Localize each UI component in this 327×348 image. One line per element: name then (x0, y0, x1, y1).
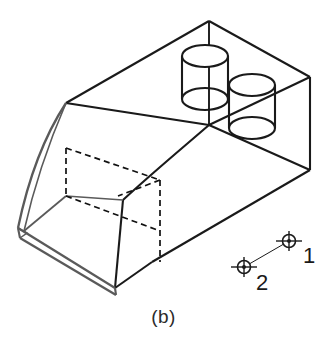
datum-target-group: 1 2 (231, 231, 315, 295)
cylinder-right-top-ellipse (229, 74, 275, 96)
hidden-recess (66, 148, 160, 262)
datum-target-1-label: 1 (303, 243, 315, 268)
right-lower-face-edge (152, 170, 310, 262)
inclined-face-right-edge (209, 125, 310, 170)
datum-target-2-center-dot (242, 265, 246, 269)
datum-connector-line (244, 241, 289, 267)
cylinder-left-bottom-ellipse (182, 88, 228, 110)
cylinder-left (182, 45, 228, 110)
hidden-recess-diagonal-edge (118, 180, 160, 196)
cylinder-right-bottom-ellipse (229, 117, 275, 139)
left-concave-inner-curve (24, 103, 66, 231)
front-bottom-right-edge (115, 262, 152, 288)
datum-target-2-label: 2 (256, 270, 268, 295)
cylinder-left-top-ellipse (182, 45, 228, 67)
base-slab-front-edge (115, 288, 116, 295)
isometric-part-drawing: 1 2 (0, 0, 327, 348)
concave-inner-wall-edge (24, 196, 66, 231)
datum-target-1-center-dot (287, 239, 291, 243)
figure-caption: (b) (0, 306, 327, 328)
hidden-recess-bottom-left-edge (66, 196, 160, 231)
datum-target-2: 2 (231, 257, 268, 295)
concave-bottom-seam (66, 196, 123, 200)
hidden-recess-top-left-edge (66, 148, 160, 180)
base-slab-top-edge (18, 228, 115, 288)
base-slab-bottom-edge (20, 238, 116, 295)
cylinder-right (229, 74, 275, 139)
datum-target-1: 1 (276, 231, 315, 268)
inclined-face-lower-left-edge (115, 200, 123, 288)
